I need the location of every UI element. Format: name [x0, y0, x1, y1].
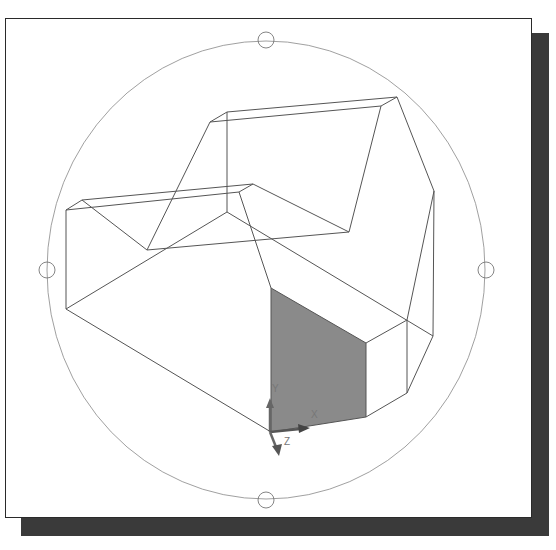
ucs-x-label: X: [311, 409, 318, 420]
ucs-z-arrowhead-icon: [272, 444, 282, 456]
wireframe-model[interactable]: [66, 97, 434, 432]
viewport-canvas[interactable]: Y X Z: [0, 0, 556, 550]
selected-face[interactable]: [271, 288, 366, 432]
ucs-z-axis: [270, 432, 276, 447]
orbit-arcball[interactable]: [47, 41, 485, 499]
ucs-z-label: Z: [284, 436, 290, 447]
orbit-grip-bottom[interactable]: [258, 492, 274, 508]
ucs-y-label: Y: [272, 383, 279, 394]
orbit-grip-top[interactable]: [258, 32, 274, 48]
cad-figure: Y X Z: [0, 0, 556, 550]
orbit-grip-right[interactable]: [478, 262, 494, 278]
